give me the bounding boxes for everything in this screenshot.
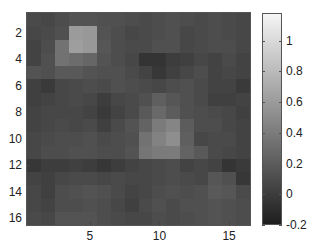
heatmap-cell	[208, 172, 222, 185]
heatmap-cell	[194, 13, 208, 26]
heatmap-cell	[69, 106, 83, 119]
heatmap-cell	[194, 53, 208, 66]
heatmap-cell	[180, 185, 194, 198]
heatmap-cell	[97, 119, 111, 132]
heatmap-cell	[236, 93, 250, 106]
heatmap-cell	[139, 40, 153, 53]
heatmap-cell	[180, 119, 194, 132]
heatmap-cell	[83, 106, 97, 119]
heatmap-cell	[55, 79, 69, 92]
heatmap-cell	[83, 146, 97, 159]
heatmap-cell	[69, 79, 83, 92]
colorbar-tick-label: 0.2	[286, 158, 303, 170]
heatmap-cell	[97, 185, 111, 198]
heatmap-cell	[222, 93, 236, 106]
y-tick-mark	[27, 112, 30, 113]
heatmap-cell	[69, 66, 83, 79]
heatmap-cell	[139, 159, 153, 172]
heatmap-cell	[41, 79, 55, 92]
heatmap-cell	[125, 172, 139, 185]
heatmap-cell	[97, 146, 111, 159]
y-tick-mark	[27, 165, 30, 166]
heatmap-cell	[55, 119, 69, 132]
heatmap-cell	[194, 26, 208, 39]
heatmap-cell	[83, 172, 97, 185]
heatmap-cell	[83, 79, 97, 92]
x-tick-mark	[90, 222, 91, 225]
colorbar-tick-mark	[279, 102, 282, 103]
heatmap-cell	[180, 26, 194, 39]
heatmap-cell	[180, 146, 194, 159]
heatmap-cell	[236, 79, 250, 92]
heatmap-cell	[55, 93, 69, 106]
heatmap-cell	[83, 53, 97, 66]
heatmap-cell	[83, 26, 97, 39]
heatmap-cell	[236, 212, 250, 225]
colorbar-tick-label: 0.4	[286, 127, 303, 139]
x-tick-mark	[159, 222, 160, 225]
heatmap-cell	[152, 26, 166, 39]
heatmap-cell	[55, 40, 69, 53]
heatmap-cell	[222, 106, 236, 119]
heatmap-cell	[111, 53, 125, 66]
colorbar-tick-mark	[262, 102, 265, 103]
heatmap-cell	[208, 159, 222, 172]
heatmap-cell	[69, 26, 83, 39]
heatmap-cell	[208, 132, 222, 145]
colorbar-tick-mark	[262, 164, 265, 165]
heatmap-cell	[180, 13, 194, 26]
heatmap-cell	[166, 79, 180, 92]
heatmap-cell	[55, 53, 69, 66]
heatmap-cell	[139, 93, 153, 106]
colorbar-tick-mark	[262, 225, 265, 226]
heatmap-cell	[83, 132, 97, 145]
heatmap-cell	[69, 212, 83, 225]
y-tick-mark	[27, 59, 30, 60]
heatmap-cell	[83, 66, 97, 79]
heatmap-cell	[111, 172, 125, 185]
colorbar-tick-label: 1	[286, 35, 293, 47]
heatmap-cell	[69, 40, 83, 53]
heatmap-cell	[55, 146, 69, 159]
heatmap-cell	[125, 119, 139, 132]
y-tick-label: 16	[0, 212, 22, 224]
heatmap-cell	[236, 172, 250, 185]
heatmap-cell	[222, 66, 236, 79]
heatmap-cell	[55, 66, 69, 79]
y-tick-label: 4	[0, 53, 22, 65]
heatmap-cell	[111, 66, 125, 79]
heatmap-cell	[152, 185, 166, 198]
colorbar-tick-mark	[279, 225, 282, 226]
heatmap-cell	[152, 93, 166, 106]
heatmap-cell	[125, 13, 139, 26]
heatmap-cell	[236, 26, 250, 39]
heatmap-cell	[69, 172, 83, 185]
heatmap-cell	[236, 146, 250, 159]
colorbar-tick-mark	[262, 41, 265, 42]
heatmap-cell	[125, 66, 139, 79]
heatmap-cell	[194, 172, 208, 185]
heatmap-cell	[111, 199, 125, 212]
heatmap-cell	[194, 40, 208, 53]
heatmap-cell	[166, 40, 180, 53]
heatmap-cell	[139, 185, 153, 198]
colorbar-tick-mark	[262, 71, 265, 72]
heatmap-cell	[41, 106, 55, 119]
heatmap-cell	[222, 119, 236, 132]
heatmap-cell	[208, 13, 222, 26]
heatmap-cell	[111, 40, 125, 53]
heatmap-cell	[41, 26, 55, 39]
heatmap-cell	[83, 13, 97, 26]
heatmap-cell	[69, 119, 83, 132]
heatmap-cell	[222, 185, 236, 198]
heatmap-cell	[97, 132, 111, 145]
heatmap-cell	[152, 66, 166, 79]
heatmap-cell	[41, 199, 55, 212]
heatmap-cell	[55, 132, 69, 145]
heatmap-cell	[166, 26, 180, 39]
heatmap-cell	[139, 106, 153, 119]
x-tick-label: 5	[78, 230, 102, 242]
y-tick-mark	[27, 33, 30, 34]
heatmap-cell	[55, 199, 69, 212]
heatmap-cell	[97, 159, 111, 172]
